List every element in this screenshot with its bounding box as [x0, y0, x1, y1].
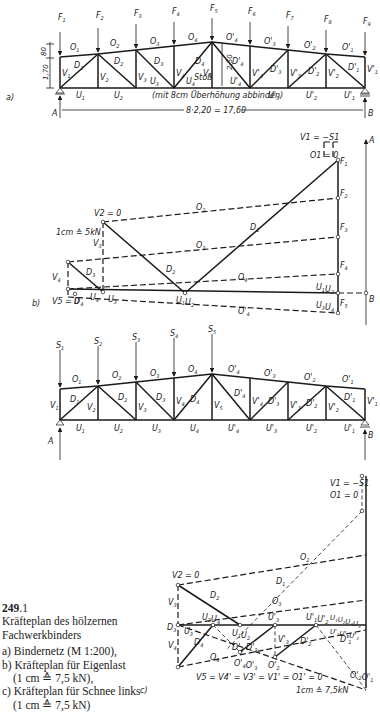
svg-text:O4: O4 — [188, 365, 197, 375]
zero-members-note: V5 = V4' = V3' = V1' = O1' = 0 — [196, 673, 322, 682]
svg-text:V5: V5 — [214, 401, 223, 411]
svg-text:V5 = 0: V5 = 0 — [52, 297, 79, 306]
svg-text:D2: D2 — [210, 591, 219, 601]
panel-c-force-plan: V1 = −S1 O1 = 0 V2 = 0 O2 O3 D1 D2 D3 D4… — [140, 474, 373, 695]
svg-text:O1: O1 — [70, 43, 79, 53]
svg-text:A: A — [368, 136, 374, 145]
panel-a-label: a) — [6, 93, 14, 102]
svg-text:U'4: U'4 — [230, 77, 241, 87]
svg-text:O'1: O'1 — [342, 375, 354, 385]
svg-text:V'1: V'1 — [367, 397, 378, 407]
svg-text:D3: D3 — [156, 393, 165, 403]
svg-text:O'2: O'2 — [304, 41, 316, 51]
svg-text:D4: D4 — [195, 57, 204, 67]
svg-text:D'2: D'2 — [306, 399, 318, 409]
svg-text:D2: D2 — [118, 393, 127, 403]
svg-text:A: A — [51, 109, 57, 118]
svg-text:U3: U3 — [152, 424, 161, 434]
svg-text:O3: O3 — [150, 369, 159, 379]
caption-item-b-scale: (1 cm ≙ 7,5 kN), — [2, 672, 172, 685]
svg-text:O'2O'1: O'2O'1 — [350, 671, 373, 683]
panel-c-truss: S1 S2 S3 S4 S5 O1 O2 O3 O4 O'4 O'3 O'2 O… — [47, 325, 378, 460]
svg-text:V2: V2 — [100, 73, 109, 83]
svg-text:D1: D1 — [250, 223, 259, 233]
svg-text:D1: D1 — [74, 61, 83, 71]
svg-text:O2: O2 — [112, 371, 121, 381]
svg-text:U'1: U'1 — [344, 424, 355, 434]
svg-text:F9: F9 — [363, 17, 371, 27]
svg-text:U4: U4 — [190, 424, 199, 434]
svg-text:F1: F1 — [340, 157, 348, 167]
span-dimension: 8·2,20 = 17,60 — [186, 106, 246, 115]
panel-b-label: b) — [32, 299, 40, 308]
svg-text:V'3: V'3 — [290, 401, 301, 411]
svg-text:U'2: U'2 — [306, 424, 317, 434]
svg-text:D2: D2 — [166, 265, 175, 275]
svg-text:U2: U2 — [114, 424, 123, 434]
svg-text:S1: S1 — [56, 341, 64, 351]
svg-text:V'3: V'3 — [290, 69, 301, 79]
svg-text:O'1: O'1 — [342, 43, 354, 53]
svg-text:F4: F4 — [340, 261, 348, 271]
svg-text:V'4: V'4 — [252, 397, 263, 407]
svg-text:D3: D3 — [154, 57, 163, 67]
svg-text:F8: F8 — [324, 15, 332, 25]
svg-text:F7: F7 — [286, 11, 295, 21]
svg-text:D3: D3 — [86, 268, 95, 278]
svg-text:O'4: O'4 — [226, 33, 238, 43]
svg-text:V'3: V'3 — [278, 635, 289, 645]
figure-title-line2: Fachwerkbinders — [2, 629, 172, 642]
svg-text:D'3: D'3 — [270, 65, 282, 75]
svg-text:D'1: D'1 — [344, 393, 356, 403]
svg-text:V2: V2 — [87, 403, 96, 413]
panel-a-truss: a) 80 1,70 2,50 F1 F2 F3 F4 F5 F6 F7 F8 … — [6, 4, 378, 118]
svg-text:F6: F6 — [248, 7, 256, 17]
svg-text:U'1: U'1 — [344, 91, 355, 101]
svg-text:V'4: V'4 — [252, 69, 263, 79]
svg-text:D2: D2 — [114, 57, 123, 67]
svg-text:D1: D1 — [70, 395, 79, 405]
svg-text:V1: V1 — [62, 69, 71, 79]
svg-text:D4: D4 — [194, 638, 203, 648]
svg-text:F2: F2 — [340, 189, 348, 199]
svg-text:U2: U2 — [114, 91, 123, 101]
svg-text:V2 = 0: V2 = 0 — [172, 571, 199, 580]
svg-text:F5: F5 — [210, 4, 218, 14]
svg-text:O3: O3 — [196, 241, 205, 251]
svg-text:A: A — [47, 437, 53, 446]
svg-text:U'4: U'4 — [228, 424, 239, 434]
svg-text:U1U2: U1U2 — [176, 296, 194, 308]
svg-text:D'2: D'2 — [300, 637, 312, 647]
svg-text:B: B — [368, 109, 374, 118]
svg-text:1,70: 1,70 — [42, 64, 50, 80]
v1-note-b: V1 = −S1 — [300, 133, 339, 142]
figure-number: 249.1 — [2, 602, 172, 615]
svg-text:D'4: D'4 — [232, 57, 244, 67]
svg-text:V4: V4 — [176, 69, 185, 79]
svg-text:D'1: D'1 — [348, 63, 360, 73]
svg-text:U3: U3 — [184, 627, 193, 637]
svg-text:V'2: V'2 — [328, 69, 339, 79]
svg-text:U1: U1 — [76, 91, 85, 101]
svg-text:V4: V4 — [52, 273, 61, 283]
caption-item-a: a) Bindernetz (M 1:200), — [2, 645, 172, 658]
svg-text:V2 = 0: V2 = 0 — [94, 209, 121, 218]
svg-text:S4: S4 — [170, 329, 178, 339]
svg-text:F3: F3 — [340, 223, 348, 233]
svg-text:D1: D1 — [276, 577, 285, 587]
svg-text:U'2: U'2 — [306, 91, 317, 101]
svg-text:F3: F3 — [134, 9, 142, 19]
svg-text:O3: O3 — [272, 597, 281, 607]
caption-item-b: b) Kräfteplan für Eigenlast — [2, 659, 172, 672]
svg-text:F2: F2 — [96, 11, 104, 21]
svg-text:F1: F1 — [58, 13, 66, 23]
svg-text:O'4: O'4 — [228, 365, 240, 375]
svg-text:D'2: D'2 — [308, 67, 320, 77]
svg-text:S3: S3 — [132, 333, 140, 343]
svg-text:U3U4: U3U4 — [202, 613, 220, 625]
svg-text:U3: U3 — [108, 295, 117, 305]
svg-text:O4: O4 — [188, 33, 197, 43]
svg-text:V'2: V'2 — [328, 403, 339, 413]
svg-text:O'2: O'2 — [304, 373, 316, 383]
